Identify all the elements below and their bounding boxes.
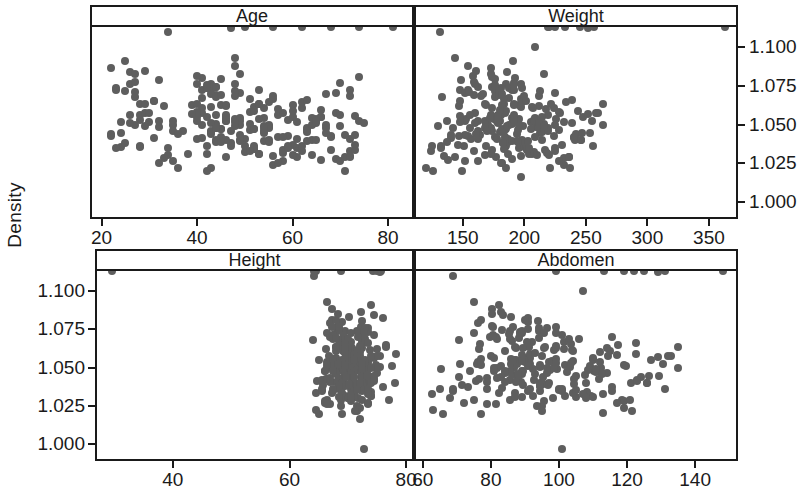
data-point	[385, 396, 393, 404]
data-point	[456, 118, 464, 126]
data-point	[346, 86, 354, 94]
x-tick-label: 40	[162, 469, 183, 491]
data-point	[338, 410, 346, 418]
data-point	[477, 410, 485, 418]
data-point	[203, 113, 211, 121]
data-point	[379, 314, 387, 322]
data-point	[428, 142, 436, 150]
data-point	[659, 360, 667, 368]
data-point	[236, 70, 244, 78]
data-point	[630, 271, 638, 275]
data-point	[367, 301, 375, 309]
data-point	[341, 362, 349, 370]
x-tick-label: 140	[679, 469, 711, 491]
data-point	[309, 336, 317, 344]
data-point	[355, 27, 363, 31]
data-point	[509, 57, 517, 65]
y-tick-label: 1.050	[37, 357, 85, 379]
figure-root: Density Age Weight Height Abdomen 204060…	[0, 0, 805, 498]
data-point	[521, 316, 529, 324]
data-point	[488, 73, 496, 81]
axis-tick	[101, 219, 103, 226]
data-point	[367, 352, 375, 360]
data-point	[518, 393, 526, 401]
data-point	[518, 357, 526, 365]
data-point	[566, 164, 574, 172]
data-point	[145, 109, 153, 117]
data-point	[497, 373, 505, 381]
data-point	[569, 347, 577, 355]
x-tick-label: 350	[693, 227, 725, 249]
data-point	[203, 81, 211, 89]
data-point	[589, 356, 597, 364]
data-point	[317, 106, 325, 114]
data-point	[337, 271, 345, 275]
data-point	[495, 301, 503, 309]
data-point	[455, 102, 463, 110]
data-point	[439, 410, 447, 418]
axis-tick	[738, 85, 745, 87]
data-point	[360, 119, 368, 127]
x-tick-label: 80	[480, 469, 501, 491]
data-point	[475, 345, 483, 353]
data-point	[449, 124, 457, 132]
axis-tick	[387, 219, 389, 226]
data-point	[477, 92, 485, 100]
y-tick-label: 1.050	[749, 114, 797, 136]
axis-tick	[708, 219, 710, 226]
data-point	[568, 96, 576, 104]
data-point	[231, 80, 239, 88]
data-point	[437, 365, 445, 373]
axis-tick	[585, 219, 587, 226]
data-point	[551, 144, 559, 152]
axis-tick	[405, 461, 407, 468]
data-point	[603, 344, 611, 352]
axis-tick	[490, 461, 492, 468]
data-point	[184, 150, 192, 158]
data-point	[599, 390, 607, 398]
data-point	[169, 157, 177, 165]
panel-age: Age	[90, 5, 414, 219]
data-point	[540, 70, 548, 78]
data-point	[568, 119, 576, 127]
data-point	[466, 111, 474, 119]
data-point	[351, 407, 359, 415]
data-point	[341, 167, 349, 175]
data-point	[721, 27, 729, 31]
data-point	[174, 164, 182, 172]
data-point	[446, 394, 454, 402]
data-point	[555, 108, 563, 116]
data-point	[389, 27, 397, 31]
data-point	[589, 393, 597, 401]
data-point	[342, 373, 350, 381]
x-tick-label: 60	[279, 469, 300, 491]
data-point	[126, 111, 134, 119]
data-point	[551, 89, 559, 97]
data-point	[354, 333, 362, 341]
data-point	[327, 132, 335, 140]
y-tick-label: 1.100	[749, 36, 797, 58]
data-point	[360, 445, 368, 453]
data-point	[429, 167, 437, 175]
data-point	[117, 118, 125, 126]
data-point	[246, 147, 254, 155]
data-point	[582, 394, 590, 402]
axis-tick	[88, 290, 95, 292]
strip-header-abdomen: Abdomen	[414, 249, 738, 271]
data-point	[470, 396, 478, 404]
data-point	[341, 131, 349, 139]
data-point	[351, 112, 359, 120]
axis-tick	[88, 443, 95, 445]
data-point	[388, 362, 396, 370]
axis-tick	[422, 461, 424, 468]
data-point	[391, 379, 399, 387]
plot-area-age	[90, 27, 414, 219]
data-point	[231, 62, 239, 70]
data-point	[350, 356, 358, 364]
data-point	[317, 156, 325, 164]
data-point	[312, 136, 320, 144]
data-point	[575, 335, 583, 343]
data-point	[222, 153, 230, 161]
data-point	[364, 400, 372, 408]
data-point	[460, 399, 468, 407]
